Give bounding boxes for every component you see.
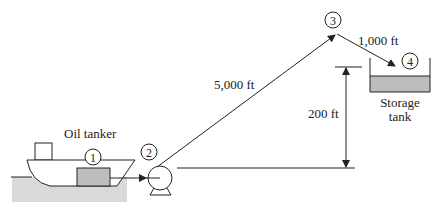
point-2-marker: 2 (141, 144, 157, 160)
tanker-cargo-hold (77, 168, 110, 186)
point-4-marker: 4 (402, 53, 418, 69)
point-2-label: 2 (146, 146, 152, 160)
pipeline-diagram: Oil tanker 1 2 5,000 ft 3 1,000 ft Stora… (0, 0, 443, 206)
pump-base (150, 188, 171, 195)
oil-tanker (27, 143, 135, 186)
tanker-cabin (35, 143, 52, 160)
storage-tank-label-line2: tank (389, 109, 412, 124)
pipe-length-5000-label: 5,000 ft (214, 77, 255, 92)
point-1-marker: 1 (85, 149, 101, 165)
point-1-label: 1 (90, 151, 96, 165)
storage-tank-label-line1: Storage (380, 95, 420, 110)
point-3-label: 3 (330, 14, 336, 28)
pipe-segment-5000ft (157, 35, 335, 167)
point-4-label: 4 (407, 55, 413, 69)
tanker-label: Oil tanker (64, 126, 117, 141)
tank-liquid (370, 76, 430, 92)
pump (148, 166, 172, 195)
elevation-dimension (335, 67, 362, 167)
pipe-length-1000-label: 1,000 ft (358, 33, 399, 48)
point-3-marker: 3 (325, 12, 341, 28)
storage-tank (370, 58, 430, 92)
elevation-label: 200 ft (308, 106, 339, 121)
